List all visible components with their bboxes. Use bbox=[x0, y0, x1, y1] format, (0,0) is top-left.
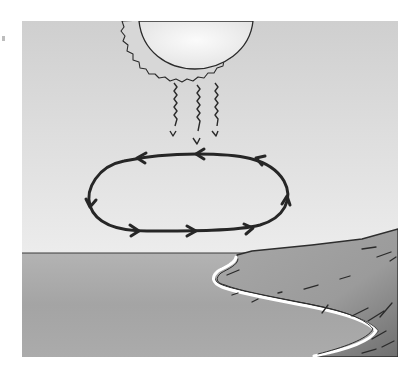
scan-mark bbox=[2, 36, 5, 41]
sea-breeze-illustration bbox=[22, 21, 398, 357]
